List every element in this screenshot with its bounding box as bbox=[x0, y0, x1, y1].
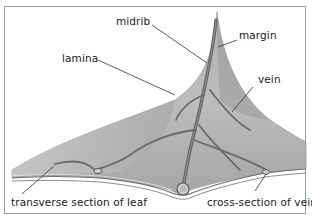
midrib-leader-line bbox=[152, 25, 207, 63]
label-midrib: midrib bbox=[116, 15, 150, 27]
cross-section-vein-leader-line bbox=[255, 174, 266, 191]
lamina-leader-line bbox=[98, 60, 175, 95]
label-vein: vein bbox=[258, 73, 281, 85]
label-margin: margin bbox=[239, 29, 277, 41]
label-lamina: lamina bbox=[62, 52, 98, 64]
label-cross-section-vein: cross-section of vein bbox=[207, 196, 312, 208]
label-transverse-section: transverse section of leaf bbox=[11, 196, 147, 208]
